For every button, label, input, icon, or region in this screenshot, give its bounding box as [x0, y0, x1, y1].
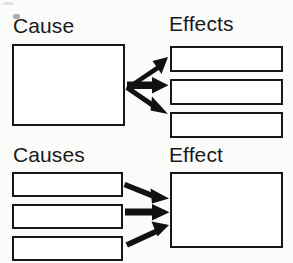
diverging-arrow-down: [126, 85, 169, 114]
arrow-layer: [0, 0, 293, 263]
converging-arrow-1: [124, 182, 170, 204]
diverging-arrow-group: [126, 57, 169, 114]
converging-arrow-3: [126, 222, 170, 248]
converging-arrow-2: [125, 204, 170, 221]
diagram-canvas: Cause Effects Causes Effect: [0, 0, 293, 263]
converging-arrow-group: [124, 182, 170, 248]
